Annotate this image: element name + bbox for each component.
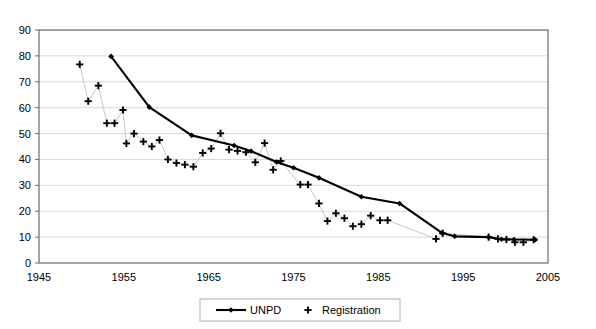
y-axis-tick-label: 90: [19, 24, 31, 36]
x-axis-tick-label: 1995: [451, 271, 475, 283]
line-chart: 0102030405060708090 19451955196519751985…: [0, 0, 596, 329]
y-axis-tick-label: 80: [19, 50, 31, 62]
y-axis-tick-label: 30: [19, 179, 31, 191]
x-axis-tick-label: 1945: [27, 271, 51, 283]
x-axis-tick-label: 1975: [281, 271, 305, 283]
y-axis-tick-label: 50: [19, 128, 31, 140]
y-axis-tick-label: 40: [19, 153, 31, 165]
legend-label-unpd: UNPD: [250, 304, 281, 316]
x-axis-tick-label: 1955: [112, 271, 136, 283]
y-axis-tick-label: 10: [19, 231, 31, 243]
chart-container: 0102030405060708090 19451955196519751985…: [0, 0, 596, 329]
legend-label-registration: Registration: [322, 304, 381, 316]
x-axis-tick-label: 1985: [366, 271, 390, 283]
y-axis-tick-label: 20: [19, 205, 31, 217]
y-axis-tick-label: 60: [19, 102, 31, 114]
x-axis-tick-label: 1965: [196, 271, 220, 283]
y-axis-tick-label: 70: [19, 76, 31, 88]
x-axis-tick-label: 2005: [536, 271, 560, 283]
legend: UNPDRegistration: [200, 299, 400, 321]
y-axis-tick-label: 0: [25, 257, 31, 269]
